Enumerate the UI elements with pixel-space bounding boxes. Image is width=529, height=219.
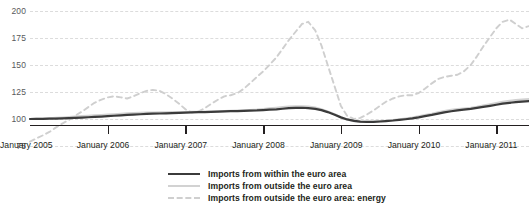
- x-tick-2007: [185, 125, 186, 134]
- y-tick-label-200: 200: [0, 6, 26, 16]
- series-line-2: [30, 20, 529, 142]
- x-tick-2010: [419, 125, 420, 134]
- x-axis-line: [30, 125, 529, 126]
- series-line-0: [30, 101, 529, 122]
- legend-label-0: Imports from within the euro area: [208, 169, 346, 179]
- x-tick-2006: [108, 125, 109, 134]
- x-tick-label-2008: January 2008: [232, 140, 285, 150]
- legend-swatch-icon-2: [168, 197, 200, 199]
- chart-legend: Imports from within the euro areaImports…: [0, 168, 529, 204]
- legend-swatch-icon-1: [168, 185, 200, 187]
- x-tick-label-2006: January 2006: [77, 140, 130, 150]
- legend-swatch-icon-0: [168, 173, 200, 175]
- x-tick-label-2009: January 2009: [310, 140, 363, 150]
- x-tick-2009: [341, 125, 342, 134]
- x-tick-label-2007: January 2007: [154, 140, 207, 150]
- y-tick-label-125: 125: [0, 87, 26, 97]
- x-tick-label-2005: January 2005: [0, 140, 53, 150]
- y-tick-label-150: 150: [0, 60, 26, 70]
- y-tick-label-100: 100: [0, 114, 26, 124]
- legend-item-0[interactable]: Imports from within the euro area: [0, 168, 529, 180]
- legend-label-2: Imports from outside the euro area: ener…: [208, 193, 386, 203]
- legend-item-2[interactable]: Imports from outside the euro area: ener…: [0, 192, 529, 204]
- legend-item-1[interactable]: Imports from outside the euro area: [0, 180, 529, 192]
- x-tick-label-2010: January 2010: [388, 140, 441, 150]
- legend-label-1: Imports from outside the euro area: [208, 181, 352, 191]
- x-tick-2008: [263, 125, 264, 134]
- x-axis-labels: January 2005January 2006January 2007Janu…: [0, 140, 529, 154]
- imports-index-line-chart: 75100125150175200 January 2005January 20…: [0, 0, 529, 219]
- x-tick-2011: [496, 125, 497, 134]
- x-tick-label-2011: January 2011: [465, 140, 517, 150]
- y-tick-label-175: 175: [0, 33, 26, 43]
